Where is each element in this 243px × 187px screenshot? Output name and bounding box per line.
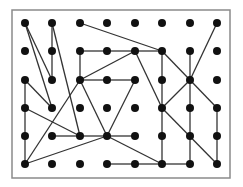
node-1-5: [48, 160, 56, 168]
node-6-2: [186, 76, 194, 84]
nodes-group: [21, 19, 221, 168]
node-0-2: [21, 76, 29, 84]
edge: [52, 23, 80, 136]
edge: [80, 51, 135, 80]
edges-group: [25, 23, 217, 164]
node-3-5: [103, 160, 111, 168]
node-7-0: [213, 19, 221, 27]
node-5-5: [158, 160, 166, 168]
edge: [25, 23, 52, 80]
node-2-1: [76, 47, 84, 55]
node-6-0: [186, 19, 194, 27]
edge: [107, 80, 135, 136]
node-1-4: [48, 132, 56, 140]
edge: [162, 51, 190, 80]
node-3-0: [103, 19, 111, 27]
node-5-4: [158, 132, 166, 140]
edge: [80, 23, 162, 51]
node-2-2: [76, 76, 84, 84]
node-0-3: [21, 104, 29, 112]
node-2-4: [76, 132, 84, 140]
edge: [25, 136, 107, 164]
edge: [25, 108, 80, 136]
node-0-1: [21, 47, 29, 55]
node-4-1: [131, 47, 139, 55]
graph-diagram: [0, 0, 243, 187]
node-4-5: [131, 160, 139, 168]
node-1-0: [48, 19, 56, 27]
node-5-2: [158, 76, 166, 84]
node-3-4: [103, 132, 111, 140]
node-3-3: [103, 104, 111, 112]
frame-border: [12, 10, 230, 178]
node-6-5: [186, 160, 194, 168]
node-6-4: [186, 132, 194, 140]
node-4-4: [131, 132, 139, 140]
node-1-2: [48, 76, 56, 84]
node-7-3: [213, 104, 221, 112]
node-5-0: [158, 19, 166, 27]
edge: [190, 80, 217, 108]
node-5-1: [158, 47, 166, 55]
edge: [162, 80, 190, 108]
node-7-4: [213, 132, 221, 140]
node-6-1: [186, 47, 194, 55]
node-7-5: [213, 160, 221, 168]
node-4-3: [131, 104, 139, 112]
node-6-3: [186, 104, 194, 112]
node-7-1: [213, 47, 221, 55]
node-7-2: [213, 76, 221, 84]
edge: [135, 51, 162, 108]
node-5-3: [158, 104, 166, 112]
node-0-4: [21, 132, 29, 140]
node-0-5: [21, 160, 29, 168]
node-3-1: [103, 47, 111, 55]
edge: [25, 23, 52, 108]
edge: [190, 23, 217, 80]
node-2-0: [76, 19, 84, 27]
node-2-5: [76, 160, 84, 168]
node-0-0: [21, 19, 29, 27]
edge: [107, 136, 162, 164]
node-4-2: [131, 76, 139, 84]
node-2-3: [76, 104, 84, 112]
node-1-3: [48, 104, 56, 112]
edge: [80, 80, 107, 136]
node-4-0: [131, 19, 139, 27]
node-3-2: [103, 76, 111, 84]
node-1-1: [48, 47, 56, 55]
